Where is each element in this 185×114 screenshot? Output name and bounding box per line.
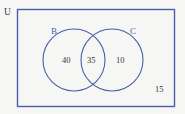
venn-diagram: U B C 40 35 10 15 — [0, 0, 185, 114]
universe-label: U — [4, 8, 11, 18]
region-value-outside: 15 — [155, 85, 164, 94]
region-value-right-only: 10 — [116, 56, 125, 65]
region-value-left-only: 40 — [62, 56, 71, 65]
region-value-intersection: 35 — [87, 56, 96, 65]
set-label-left: B — [51, 27, 57, 36]
set-label-right: C — [130, 27, 136, 36]
universe-rectangle — [18, 10, 175, 107]
set-circle-left — [43, 29, 105, 91]
